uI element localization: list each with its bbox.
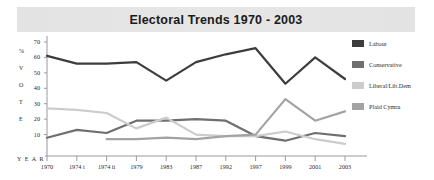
- x-tick-label: 2001: [309, 163, 321, 170]
- chart-legend: LabourConservativeLiberal/Lib.DemPlaid C…: [352, 37, 434, 121]
- legend-label: Labour: [369, 40, 387, 47]
- page-title: Electoral Trends 1970 - 2003: [129, 13, 302, 27]
- legend-item: Conservative: [352, 58, 434, 70]
- legend-item: Labour: [352, 37, 434, 49]
- x-tick-label: 1983: [160, 163, 172, 170]
- y-tick-label: 40: [26, 84, 40, 91]
- legend-swatch: [352, 40, 364, 47]
- series-line: [47, 119, 345, 141]
- y-axis-title-char: T: [19, 99, 23, 105]
- y-tick-label: 60: [26, 53, 40, 60]
- legend-label: Liberal/Lib.Dem: [369, 82, 411, 89]
- legend-item: Liberal/Lib.Dem: [352, 79, 434, 91]
- y-tick-label: 20: [26, 115, 40, 122]
- x-tick-label: 1974 ii: [98, 163, 115, 170]
- legend-label: Conservative: [369, 61, 402, 68]
- series-line: [47, 48, 345, 83]
- y-axis-title-char: %: [19, 48, 24, 54]
- legend-swatch: [352, 103, 364, 110]
- x-axis-title: Y E A R: [17, 156, 45, 162]
- chart-title-band: Electoral Trends 1970 - 2003: [17, 7, 415, 32]
- chart-figure: Electoral Trends 1970 - 2003 70605040302…: [0, 0, 434, 180]
- x-tick-label: 1970: [41, 163, 53, 170]
- y-axis-title-char: E: [19, 116, 23, 122]
- legend-swatch: [352, 82, 364, 89]
- x-tick-label: 1987: [190, 163, 202, 170]
- x-tick-label: 1997: [249, 163, 261, 170]
- series-line: [107, 99, 345, 139]
- y-tick-label: 10: [26, 131, 40, 138]
- x-tick-label: 1992: [220, 163, 232, 170]
- x-tick-label: 2003: [339, 163, 351, 170]
- y-tick-label: 30: [26, 100, 40, 107]
- y-axis-title-char: V: [19, 65, 24, 71]
- legend-item: Plaid Cymru: [352, 100, 434, 112]
- legend-swatch: [352, 61, 364, 68]
- x-tick-label: 1979: [130, 163, 142, 170]
- y-tick-label: 70: [26, 38, 40, 45]
- y-tick-label: 50: [26, 69, 40, 76]
- legend-label: Plaid Cymru: [369, 103, 400, 110]
- x-tick-label: 1974 i: [69, 163, 85, 170]
- y-axis-title-char: O: [19, 82, 24, 88]
- x-tick-label: 1999: [279, 163, 291, 170]
